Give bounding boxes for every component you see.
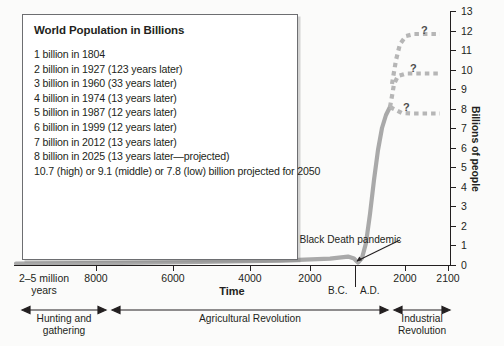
legend-line-4: 4 billion in 1974 (13 years later)	[34, 91, 287, 106]
era-caption-industrial: Industrial Revolution	[398, 313, 446, 337]
y-label-13: 13	[461, 6, 473, 17]
y-tick-12	[450, 31, 456, 32]
low-projection-line	[390, 107, 440, 114]
x-tick-2000bc	[310, 265, 311, 271]
era-caption-agricultural: Agricultural Revolution	[199, 313, 301, 325]
x-label-prehistory-line2: years	[31, 284, 57, 296]
x-tick-2000ad	[405, 265, 406, 271]
y-label-3: 3	[461, 201, 467, 212]
x-axis-title: Time	[219, 285, 244, 297]
y-tick-3	[450, 206, 456, 207]
y-tick-1	[450, 245, 456, 246]
legend-line-7: 7 billion in 2012 (13 years later)	[34, 135, 287, 150]
legend-line-9: 10.7 (high) or 9.1 (middle) or 7.8 (low)…	[34, 164, 287, 179]
x-label-2100ad: 2100	[436, 273, 459, 285]
x-tick-6000bc	[173, 265, 174, 271]
y-label-2: 2	[461, 221, 467, 232]
legend-line-5: 5 billion in 1987 (12 years later)	[34, 105, 287, 120]
y-tick-0	[450, 265, 456, 266]
y-tick-13	[450, 11, 456, 12]
y-tick-10	[450, 70, 456, 71]
y-tick-4	[450, 187, 456, 188]
y-label-10: 10	[461, 65, 473, 76]
question-mark-high: ?	[421, 24, 428, 36]
population-chart-figure: 13 12 11 10 9 8 7 6 5 4 3 2 1 0 Billions…	[0, 0, 504, 346]
y-tick-5	[450, 167, 456, 168]
middle-projection-line	[390, 74, 440, 108]
y-tick-9	[450, 89, 456, 90]
y-label-8: 8	[461, 104, 467, 115]
era-caption-agricultural-line1: Agricultural Revolution	[199, 313, 301, 324]
y-axis-title: Billions of people	[470, 106, 482, 192]
y-label-6: 6	[461, 143, 467, 154]
y-label-7: 7	[461, 123, 467, 134]
legend-box: World Population in Billions 1 billion i…	[22, 14, 298, 260]
era-caption-hunting-line1: Hunting and	[37, 313, 92, 324]
x-label-6000bc: 6000	[161, 273, 184, 285]
y-label-12: 12	[461, 26, 473, 37]
y-tick-2	[450, 226, 456, 227]
high-projection-line	[392, 34, 440, 84]
y-label-5: 5	[461, 162, 467, 173]
legend-title: World Population in Billions	[34, 24, 287, 36]
era-caption-industrial-line1: Industrial	[401, 313, 442, 324]
x-tick-8000bc	[96, 265, 97, 271]
y-label-4: 4	[461, 182, 467, 193]
x-label-4000bc: 4000	[238, 273, 261, 285]
y-label-1: 1	[461, 240, 467, 251]
x-label-2000ad: 2000	[393, 273, 416, 285]
legend-line-3: 3 billion in 1960 (33 years later)	[34, 76, 287, 91]
y-tick-11	[450, 50, 456, 51]
bc-ad-divider	[355, 265, 356, 287]
x-label-prehistory: 2–5 million years	[19, 273, 69, 296]
x-label-prehistory-line1: 2–5 million	[19, 272, 69, 284]
x-tick-4000bc	[250, 265, 251, 271]
legend-line-1: 1 billion in 1804	[34, 47, 287, 62]
x-label-2000bc: 2000	[298, 273, 321, 285]
question-mark-low: ?	[403, 101, 410, 113]
y-label-11: 11	[461, 45, 472, 56]
legend-line-2: 2 billion in 1927 (123 years later)	[34, 62, 287, 77]
y-label-9: 9	[461, 84, 467, 95]
x-label-8000bc: 8000	[84, 273, 107, 285]
x-axis-line	[14, 265, 451, 266]
era-caption-hunting-line2: gathering	[43, 325, 85, 336]
question-mark-middle: ?	[410, 62, 417, 74]
y-label-0: 0	[461, 260, 467, 271]
era-caption-industrial-line2: Revolution	[398, 325, 446, 336]
era-label-ad: A.D.	[360, 285, 379, 296]
era-label-bc: B.C.	[328, 285, 347, 296]
y-tick-8	[450, 109, 456, 110]
y-tick-6	[450, 148, 456, 149]
era-caption-hunting: Hunting and gathering	[37, 313, 92, 337]
x-tick-2100ad	[448, 265, 449, 271]
legend-line-8: 8 billion in 2025 (13 years later—projec…	[34, 149, 287, 164]
y-tick-7	[450, 128, 456, 129]
legend-line-6: 6 billion in 1999 (12 years later)	[34, 120, 287, 135]
